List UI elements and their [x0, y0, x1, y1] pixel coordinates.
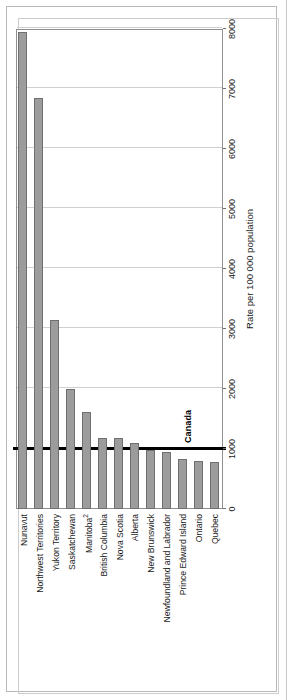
gridline — [17, 27, 222, 28]
bar — [162, 452, 171, 509]
category-label: Northwest Territories — [36, 514, 45, 593]
axis-tick-label: 1000 — [227, 439, 237, 459]
gridline — [17, 147, 222, 148]
bar — [114, 439, 123, 510]
axis-tick-label: 5000 — [227, 199, 237, 219]
category-label: British Columbia — [99, 514, 108, 577]
axis-tick — [223, 328, 226, 329]
axis-title: Rate per 100 000 population — [244, 209, 255, 329]
bar — [146, 451, 155, 510]
category-label: New Brunswick — [147, 514, 156, 573]
gridline — [17, 207, 222, 208]
category-label: Ontario — [195, 514, 204, 542]
axis-tick-label: 6000 — [227, 139, 237, 159]
bar — [194, 461, 203, 509]
axis-tick-label: 0 — [227, 506, 237, 511]
category-label: Saskatchewan — [67, 514, 76, 570]
bar — [82, 412, 91, 509]
bar-chart: Canada 010002000300040005000600070008000… — [0, 0, 289, 700]
category-label: Yukon Territory — [52, 514, 61, 571]
category-label: Newfoundland and Labrador — [163, 514, 172, 622]
gridline — [17, 267, 222, 268]
category-label: Nova Scotia — [115, 514, 124, 560]
gridline — [17, 387, 222, 388]
category-label: Manitoba2 — [82, 514, 92, 553]
category-label: Alberta — [131, 514, 140, 541]
axis-tick — [223, 88, 226, 89]
bar — [210, 463, 219, 510]
axis-tick — [223, 28, 226, 29]
gridline — [17, 87, 222, 88]
bar — [66, 389, 75, 509]
bar — [178, 459, 187, 509]
page-edge-line — [286, 0, 287, 700]
bar — [98, 438, 107, 509]
bar — [130, 443, 139, 509]
bar — [18, 32, 27, 509]
category-label: Quebec — [211, 514, 220, 544]
axis-tick-label: 8000 — [227, 19, 237, 39]
canada-reference-label: Canada — [183, 410, 193, 443]
bar — [34, 98, 43, 509]
axis-tick — [223, 448, 226, 449]
rotated-figure-container: Canada 010002000300040005000600070008000… — [0, 0, 289, 700]
bar — [50, 320, 59, 509]
axis-tick-label: 3000 — [227, 319, 237, 339]
gridline — [17, 327, 222, 328]
axis-tick-label: 2000 — [227, 379, 237, 399]
axis-tick — [223, 268, 226, 269]
axis-tick-label: 4000 — [227, 259, 237, 279]
axis-tick — [223, 208, 226, 209]
axis-tick — [223, 388, 226, 389]
category-label: Prince Edward Island — [179, 514, 188, 595]
category-label: Nunavut — [20, 514, 29, 546]
axis-tick-label: 7000 — [227, 79, 237, 99]
axis-tick — [223, 508, 226, 509]
axis-tick — [223, 148, 226, 149]
